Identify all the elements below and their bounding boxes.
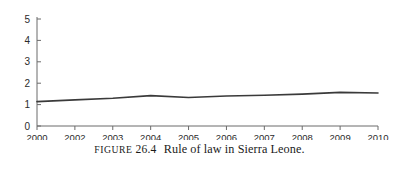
x-axis-tick-label: 2010 xyxy=(367,132,388,141)
x-axis-tick-label: 2006 xyxy=(216,132,237,141)
y-axis-tick-label: 3 xyxy=(24,56,30,67)
y-axis-tick-label: 4 xyxy=(24,35,30,46)
y-axis-tick-label: 5 xyxy=(24,14,30,25)
figure-caption: Figure 26.4 Rule of law in Sierra Leone. xyxy=(0,142,399,157)
y-axis-tick-label: 1 xyxy=(24,99,30,110)
x-axis-tick-label: 2005 xyxy=(178,132,199,141)
data-series-rule-of-law xyxy=(37,92,378,101)
y-axis-tick-label: 0 xyxy=(24,121,30,132)
x-axis-tick-label: 2003 xyxy=(102,132,123,141)
series-line xyxy=(37,92,378,101)
x-axis-tick-label: 2007 xyxy=(254,132,275,141)
caption-figure-number: 26.4 xyxy=(136,143,157,156)
x-axis: 2000200220032004200520062007200820092010 xyxy=(26,126,388,140)
chart-plot-area: 012345 200020022003200420052006200720082… xyxy=(0,0,399,140)
y-axis-tick-label: 2 xyxy=(24,78,30,89)
caption-figure-text: Rule of law in Sierra Leone. xyxy=(164,142,305,156)
x-axis-tick-label: 2004 xyxy=(140,132,161,141)
y-axis: 012345 xyxy=(24,14,41,132)
caption-figure-word: Figure xyxy=(94,144,132,155)
x-axis-tick-label: 2002 xyxy=(64,132,85,141)
figure-container: 012345 200020022003200420052006200720082… xyxy=(0,0,399,171)
line-chart: 012345 200020022003200420052006200720082… xyxy=(0,0,399,140)
x-axis-tick-label: 2000 xyxy=(26,132,47,141)
x-axis-tick-label: 2008 xyxy=(292,132,313,141)
x-axis-tick-label: 2009 xyxy=(330,132,351,141)
